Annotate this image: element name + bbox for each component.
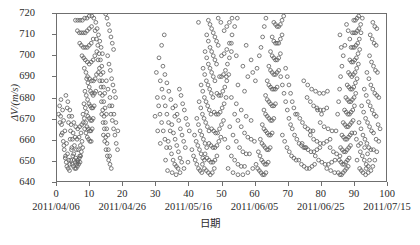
scatter-point	[109, 167, 113, 171]
scatter-point	[161, 64, 165, 68]
scatter-point	[106, 54, 110, 58]
scatter-point	[357, 121, 361, 125]
scatter-point	[239, 108, 243, 112]
scatter-point	[231, 171, 235, 175]
x-tick-mark	[321, 182, 322, 186]
scatter-point	[82, 102, 86, 106]
scatter-point	[366, 121, 370, 125]
scatter-point	[183, 146, 187, 150]
scatter-point	[169, 98, 173, 102]
scatter-point	[362, 110, 366, 114]
scatter-point	[199, 106, 203, 110]
scatter-point	[290, 100, 294, 104]
scatter-point	[182, 139, 186, 143]
scatter-point	[259, 46, 263, 50]
scatter-point	[279, 75, 283, 79]
scatter-point	[100, 100, 104, 104]
scatter-point	[170, 171, 174, 175]
scatter-point	[313, 154, 317, 158]
scatter-point	[107, 158, 111, 162]
scatter-point	[370, 108, 374, 112]
scatter-point	[224, 68, 228, 72]
scatter-point	[103, 91, 107, 95]
scatter-point	[230, 16, 234, 20]
scatter-point	[270, 35, 274, 39]
scatter-point	[322, 125, 326, 129]
scatter-point	[72, 121, 76, 125]
scatter-point	[104, 112, 108, 116]
scatter-point	[226, 146, 230, 150]
scatter-point	[165, 81, 169, 85]
scatter-point	[63, 129, 67, 133]
scatter-point	[337, 100, 341, 104]
scatter-point	[206, 83, 210, 87]
scatter-point	[170, 152, 174, 156]
scatter-point	[211, 54, 215, 58]
scatter-point	[203, 142, 207, 146]
scatter-point	[87, 85, 91, 89]
scatter-point	[287, 150, 291, 154]
scatter-point	[166, 169, 170, 173]
scatter-point	[167, 89, 171, 93]
scatter-point	[84, 71, 88, 75]
scatter-point	[285, 75, 289, 79]
scatter-point	[201, 89, 205, 93]
scatter-point	[215, 39, 219, 43]
scatter-point	[228, 20, 232, 24]
scatter-point	[206, 104, 210, 108]
scatter-point	[178, 127, 182, 131]
scatter-point	[310, 87, 314, 91]
scatter-point	[79, 131, 83, 135]
scatter-point	[320, 112, 324, 116]
scatter-point	[218, 127, 222, 131]
scatter-point	[292, 106, 296, 110]
scatter-point	[86, 98, 90, 102]
scatter-point	[229, 96, 233, 100]
scatter-point	[369, 169, 373, 173]
scatter-point	[282, 91, 286, 95]
scatter-point	[283, 139, 287, 143]
x-tick-mark	[56, 182, 57, 186]
scatter-point	[329, 169, 333, 173]
scatter-point	[306, 83, 310, 87]
scatter-point	[373, 158, 377, 162]
x-date-label: 2011/05/16	[165, 201, 212, 212]
scatter-point	[359, 127, 363, 131]
scatter-point	[209, 91, 213, 95]
scatter-point	[85, 16, 89, 20]
scatter-point	[362, 87, 366, 91]
y-tick-label: 690	[19, 71, 35, 81]
scatter-point	[204, 121, 208, 125]
scatter-point	[372, 64, 376, 68]
scatter-point	[212, 167, 216, 171]
scatter-chart-figure: ΔV/(m/s) 640650660670680690700710720 010…	[0, 0, 420, 245]
scatter-point	[233, 158, 237, 162]
scatter-point	[326, 89, 330, 93]
scatter-point	[163, 73, 167, 77]
scatter-point	[279, 37, 283, 41]
scatter-point	[58, 104, 62, 108]
scatter-point	[285, 108, 289, 112]
scatter-point	[202, 117, 206, 121]
scatter-point	[280, 133, 284, 137]
scatter-point	[369, 83, 373, 87]
scatter-point	[257, 54, 261, 58]
scatter-point	[193, 133, 197, 137]
scatter-point	[205, 125, 209, 129]
scatter-point	[153, 114, 157, 118]
scatter-point	[198, 129, 202, 133]
scatter-point	[365, 142, 369, 146]
scatter-point	[102, 114, 106, 118]
scatter-point	[289, 123, 293, 127]
scatter-point	[378, 127, 382, 131]
scatter-point	[358, 48, 362, 52]
scatter-point	[162, 96, 166, 100]
scatter-point	[241, 173, 245, 177]
scatter-point	[298, 117, 302, 121]
scatter-point	[175, 112, 179, 116]
scatter-point	[206, 39, 210, 43]
scatter-point	[371, 165, 375, 169]
scatter-point	[325, 167, 329, 171]
x-tick-mark	[255, 182, 256, 186]
scatter-point	[166, 139, 170, 143]
